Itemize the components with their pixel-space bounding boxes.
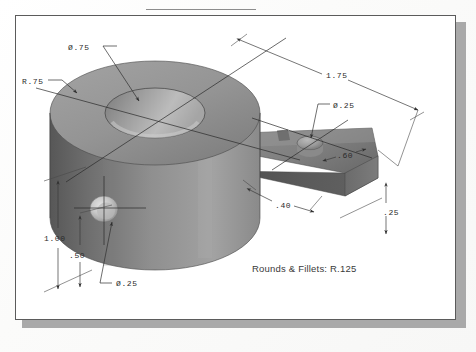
centerlines — [36, 38, 372, 245]
dim-base-height — [44, 167, 92, 292]
dim-label-bore-diameter: Ø.75 — [68, 43, 90, 52]
leader-bore-diameter — [103, 46, 139, 101]
dim-label-side-hole-diameter: Ø.25 — [116, 279, 138, 288]
leader-arm-hole-diameter — [311, 104, 330, 138]
leader-base-radius — [48, 80, 77, 93]
dim-label-arm-offset: .40 — [275, 201, 291, 210]
dim-label-boss-height: .50 — [69, 251, 85, 260]
annotation-layer: Ø.75 R.75 1.75 Ø.25 .60 1.00 .50 Ø.25 .4… — [0, 0, 476, 352]
dim-label-overall-length: 1.75 — [326, 71, 348, 80]
dim-label-arm-hole-diameter: Ø.25 — [333, 101, 355, 110]
dim-overall-length — [231, 34, 424, 166]
dim-label-arm-thickness: .25 — [383, 208, 399, 217]
drawing-page: Ø.75 R.75 1.75 Ø.25 .60 1.00 .50 Ø.25 .4… — [0, 0, 476, 352]
general-note: Rounds & Fillets: R.125 — [252, 263, 356, 274]
dim-label-base-radius: R.75 — [22, 77, 44, 86]
dim-label-arm-width: .60 — [337, 151, 353, 160]
dim-arm-thickness — [340, 186, 386, 234]
dim-label-base-height: 1.00 — [44, 234, 66, 243]
leader-side-hole-diameter — [100, 222, 112, 283]
